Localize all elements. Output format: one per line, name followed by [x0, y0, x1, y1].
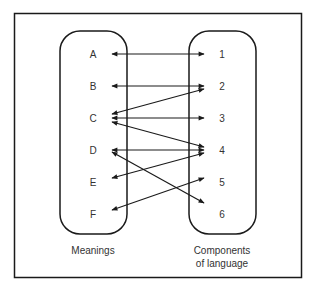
component-5: 5: [219, 177, 225, 188]
arrow-d-6: [112, 152, 204, 203]
arrow-c-4: [112, 122, 204, 147]
components-caption-line2: of language: [196, 258, 249, 269]
meaning-a: A: [90, 49, 97, 60]
component-3: 3: [219, 113, 225, 124]
meaning-e: E: [90, 177, 97, 188]
outer-frame: [15, 14, 302, 278]
arrow-c-2: [112, 89, 204, 114]
meaning-c: C: [89, 113, 96, 124]
component-1: 1: [219, 49, 225, 60]
components-container: [189, 31, 256, 234]
meaning-b: B: [90, 81, 97, 92]
component-4: 4: [219, 145, 225, 156]
arrow-f-5: [112, 178, 204, 210]
meanings-caption: Meanings: [71, 245, 114, 256]
arrow-e-4: [112, 153, 204, 178]
components-caption-line1: Components: [194, 245, 251, 256]
component-6: 6: [219, 209, 225, 220]
component-2: 2: [219, 81, 225, 92]
meanings-language-diagram: A B C D E F 1 2 3 4 5 6 Meanings Compone…: [0, 0, 312, 289]
meanings-container: [60, 31, 127, 234]
meaning-d: D: [89, 145, 96, 156]
meaning-f: F: [90, 209, 96, 220]
